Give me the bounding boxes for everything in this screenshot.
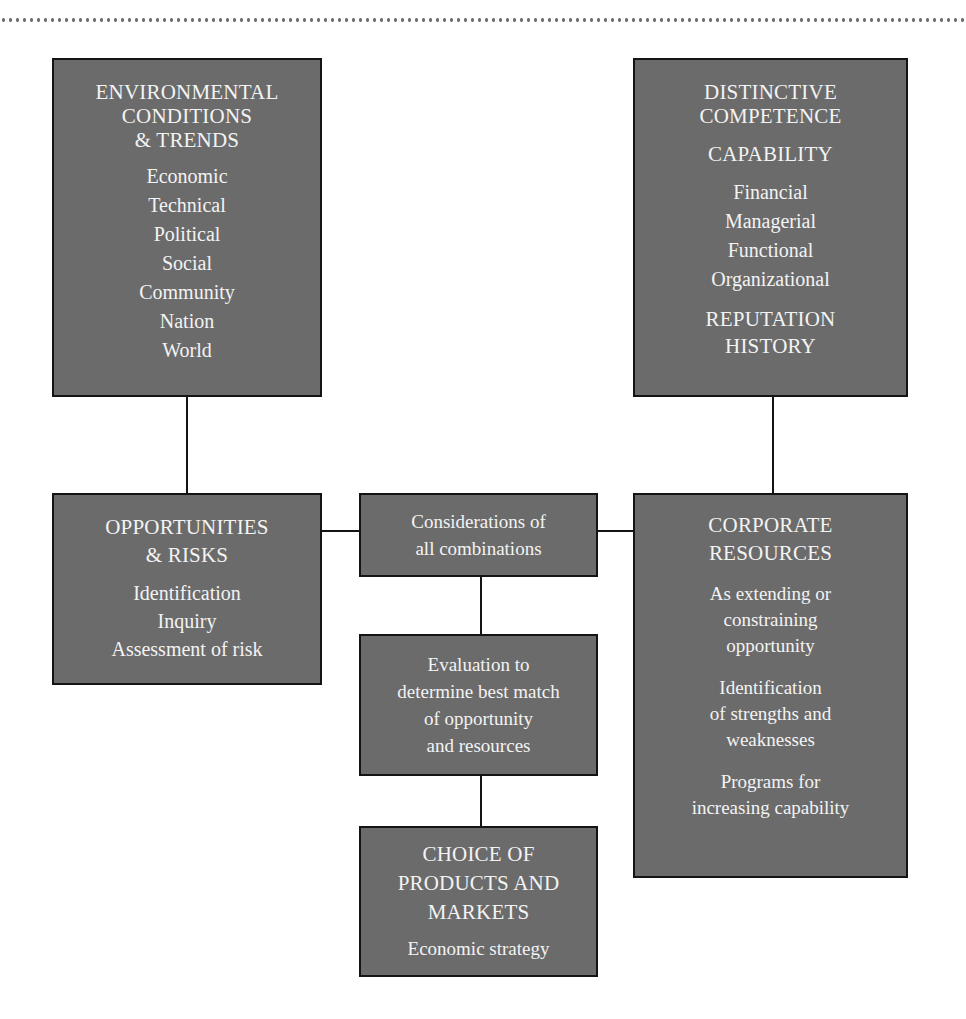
distinctive-competence-box: DISTINCTIVE COMPETENCE CAPABILITY Financ…	[633, 58, 908, 397]
capability-heading: CAPABILITY	[708, 142, 833, 166]
corporate-heading: CORPORATE RESOURCES	[708, 511, 832, 567]
corporate-resources-box: CORPORATE RESOURCES As extending or cons…	[633, 493, 908, 878]
corporate-extending-text: As extending or constraining opportunity	[710, 581, 831, 659]
connector-considerations-evaluation	[480, 576, 482, 635]
corporate-programs-text: Programs for increasing capability	[692, 769, 850, 821]
connector-considerations-corporate	[597, 530, 634, 532]
economic-strategy-text: Economic strategy	[408, 937, 550, 961]
connector-distinctive-corporate	[772, 396, 774, 494]
reputation-history-heading: REPUTATION HISTORY	[706, 306, 836, 360]
opportunities-risks-box: OPPORTUNITIES & RISKS Identification Inq…	[52, 493, 322, 685]
dotted-divider	[0, 17, 966, 23]
considerations-text: Considerations of all combinations	[411, 508, 546, 562]
environmental-factor-list: Economic Technical Political Social Comm…	[139, 162, 235, 365]
opportunities-item-list: Identification Inquiry Assessment of ris…	[111, 579, 262, 663]
environmental-heading: ENVIRONMENTAL CONDITIONS & TRENDS	[96, 80, 279, 152]
considerations-box: Considerations of all combinations	[359, 493, 598, 577]
connector-environmental-opportunities	[186, 396, 188, 494]
evaluation-text: Evaluation to determine best match of op…	[397, 651, 560, 759]
distinctive-heading: DISTINCTIVE COMPETENCE	[699, 80, 841, 128]
choice-heading: CHOICE OF PRODUCTS AND MARKETS	[398, 840, 560, 927]
corporate-strengths-text: Identification of strengths and weakness…	[710, 675, 831, 753]
environmental-conditions-box: ENVIRONMENTAL CONDITIONS & TRENDS Econom…	[52, 58, 322, 397]
capability-list: Financial Managerial Functional Organiza…	[711, 178, 829, 294]
connector-evaluation-choice	[480, 775, 482, 827]
connector-opportunities-considerations	[321, 530, 360, 532]
choice-products-markets-box: CHOICE OF PRODUCTS AND MARKETS Economic …	[359, 826, 598, 977]
opportunities-heading: OPPORTUNITIES & RISKS	[105, 513, 269, 569]
evaluation-box: Evaluation to determine best match of op…	[359, 634, 598, 776]
